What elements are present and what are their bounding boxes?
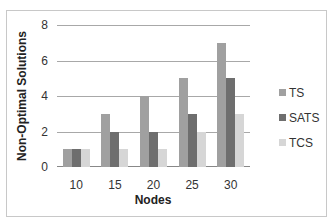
legend-swatch [279,89,286,96]
x-tick-label: 20 [147,178,160,192]
y-tick-label: 2 [36,125,48,139]
bar-tcs-15 [119,149,128,167]
x-tick-label: 10 [70,178,83,192]
legend-item-tcs: TCS [279,130,319,155]
legend-swatch [279,114,286,121]
bar-sats-20 [149,132,158,168]
legend: TSSATSTCS [279,80,319,155]
y-tick-label: 0 [36,160,48,174]
bar-ts-15 [101,114,110,167]
bar-ts-10 [63,149,72,167]
bar-ts-20 [140,96,149,167]
legend-label: SATS [289,111,319,125]
bar-tcs-30 [235,114,244,167]
bar-sats-30 [226,78,235,167]
legend-label: TCS [289,136,313,150]
x-axis-label: Nodes [135,193,172,207]
bar-sats-15 [110,132,119,168]
bar-sats-25 [188,114,197,167]
bar-tcs-25 [197,132,206,168]
legend-item-ts: TS [279,80,319,105]
legend-label: TS [289,86,304,100]
bar-ts-25 [179,78,188,167]
x-tick-label: 30 [224,178,237,192]
bar-tcs-10 [81,149,90,167]
legend-item-sats: SATS [279,105,319,130]
y-tick-label: 6 [36,54,48,68]
y-tick-label: 8 [36,18,48,32]
y-axis-label: Non-Optimal Solutions [15,31,29,161]
legend-swatch [279,139,286,146]
x-tick-label: 15 [108,178,121,192]
y-tick-label: 4 [36,89,48,103]
bar-ts-30 [217,43,226,167]
x-tick-label: 25 [185,178,198,192]
bar-tcs-20 [158,149,167,167]
bar-sats-10 [72,149,81,167]
plot-area [57,25,250,167]
gridline [57,25,250,26]
